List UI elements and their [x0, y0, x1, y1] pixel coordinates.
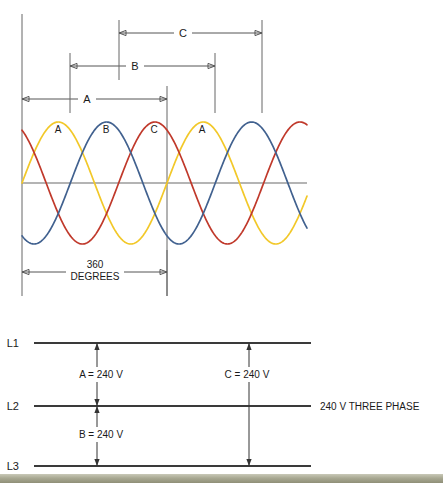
dimension-label-b: B	[131, 60, 138, 72]
diagram-svg: A B C	[0, 0, 443, 495]
scan-artifact-strip	[0, 474, 443, 483]
line-diagram-group: L1 L2 L3 A = 240 V B = 240 V	[7, 337, 420, 472]
measure-arrow-c-bottom	[246, 459, 251, 466]
wave-peak-label-a2: A	[199, 124, 206, 135]
measure-arrow-a-top	[94, 343, 99, 350]
wave-peak-label-c: C	[150, 124, 157, 135]
bus-label-l1: L1	[7, 337, 19, 349]
wave-peak-label-b: B	[103, 124, 110, 135]
measure-label-b: B = 240 V	[79, 429, 124, 440]
bus-label-l2: L2	[7, 400, 19, 412]
period-label-unit: DEGREES	[71, 271, 120, 282]
dimension-label-c: C	[179, 27, 187, 39]
dimension-label-a: A	[83, 93, 91, 105]
period-dimension-group: 360 DEGREES	[22, 250, 167, 296]
measure-arrow-b-top	[94, 406, 99, 413]
measure-label-c: C = 240 V	[225, 369, 270, 380]
bus-label-l3: L3	[7, 460, 19, 472]
measure-arrow-b-bottom	[94, 459, 99, 466]
measure-arrow-c-top	[246, 343, 251, 350]
system-label: 240 V THREE PHASE	[320, 401, 420, 412]
period-label-value: 360	[87, 259, 104, 270]
figure-canvas: A B C	[0, 0, 443, 495]
measure-label-a: A = 240 V	[79, 369, 123, 380]
waveform-plot: A B C A	[22, 122, 307, 244]
wave-peak-label-a1: A	[55, 124, 62, 135]
measure-arrow-a-bottom	[94, 399, 99, 406]
